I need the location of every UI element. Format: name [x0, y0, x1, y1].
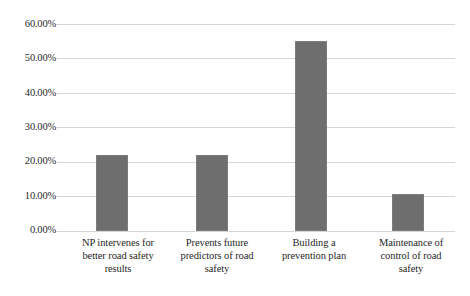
x-axis-category-label-2: Prevents future predictors of road safet…: [161, 236, 273, 275]
bar-building-prevention: [295, 41, 327, 231]
y-axis-tick-label: 10.00%: [0, 190, 56, 201]
y-axis-tick-label: 30.00%: [0, 121, 56, 132]
category-label-line: results: [62, 262, 174, 275]
gridline-60: [56, 24, 455, 25]
category-label-line: better road safety: [62, 249, 174, 262]
y-axis-tick-label: 60.00%: [0, 18, 56, 29]
gridline-50: [56, 58, 455, 59]
category-label-line: predictors of road: [161, 249, 273, 262]
gridline-0: [56, 231, 455, 232]
gridline-30: [56, 127, 455, 128]
category-label-line: prevention plan: [258, 249, 370, 262]
bar-prevents-future: [196, 155, 228, 231]
category-label-line: NP intervenes for: [62, 236, 174, 249]
category-label-line: safety: [161, 262, 273, 275]
x-axis-category-label-1: NP intervenes for better road safety res…: [62, 236, 174, 275]
bar-np-intervenes: [96, 155, 128, 231]
category-label-line: Prevents future: [161, 236, 273, 249]
x-axis-category-label-4: Maintenance of control of road safety: [355, 236, 467, 275]
category-label-line: Maintenance of: [355, 236, 467, 249]
gridline-40: [56, 93, 455, 94]
y-axis-tick-label: 50.00%: [0, 52, 56, 63]
chart-figure: 60.00% 50.00% 40.00% 30.00% 20.00% 10.00…: [0, 0, 470, 296]
x-axis-category-label-3: Building a prevention plan: [258, 236, 370, 262]
y-axis-tick-label: 0.00%: [0, 224, 56, 235]
category-label-line: safety: [355, 262, 467, 275]
y-axis-tick-label: 20.00%: [0, 155, 56, 166]
y-axis-tick-label: 40.00%: [0, 87, 56, 98]
plot-area: [62, 24, 455, 231]
category-label-line: control of road: [355, 249, 467, 262]
category-label-line: Building a: [258, 236, 370, 249]
bar-maintenance-control: [392, 194, 424, 231]
